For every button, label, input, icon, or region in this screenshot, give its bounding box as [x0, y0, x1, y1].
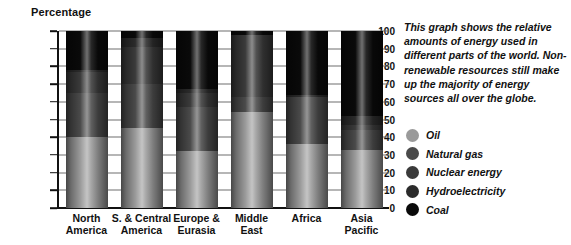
legend-item: Coal: [406, 200, 505, 219]
bar-group: [114, 31, 169, 208]
bar-segment: [286, 95, 328, 97]
y-tick-mark: [50, 172, 57, 174]
bar-segment: [176, 93, 218, 107]
bar-segment: [66, 93, 108, 137]
legend-item: Natural gas: [406, 145, 505, 164]
bar-segment: [176, 107, 218, 151]
legend-item: Hydroelectricity: [406, 182, 505, 201]
stacked-bar: [231, 31, 273, 208]
legend-color-swatch-icon: [406, 129, 419, 142]
legend-label: Coal: [426, 204, 449, 216]
bar-group: [59, 31, 114, 208]
bar-segment: [231, 97, 273, 113]
bar-group: [224, 31, 279, 208]
bar-segment: [176, 151, 218, 208]
side-panel: This graph shows the relative amounts of…: [404, 0, 571, 245]
legend-label: Hydroelectricity: [426, 185, 505, 197]
y-tick-mark: [50, 190, 57, 192]
bar-segment: [286, 31, 328, 95]
legend-item: Nuclear energy: [406, 163, 505, 182]
y-tick-mark: [50, 119, 57, 121]
bar-segment: [66, 137, 108, 208]
x-axis-category-label: AsiaPacific: [328, 212, 395, 236]
bar-segment: [66, 70, 108, 72]
stacked-bar: [121, 31, 163, 208]
chart-legend: OilNatural gasNuclear energyHydroelectri…: [406, 126, 505, 219]
bar-segment: [176, 89, 218, 93]
bar-segment: [176, 31, 218, 89]
bar-segment: [341, 31, 383, 116]
legend-color-swatch-icon: [406, 147, 419, 160]
y-tick-mark: [50, 154, 57, 156]
y-tick-mark: [50, 136, 57, 138]
legend-color-swatch-icon: [406, 185, 419, 198]
bar-segment: [121, 128, 163, 208]
energy-usage-bar-chart: Percentage 0102030405060708090100 NorthA…: [0, 0, 395, 245]
bar-segment: [231, 31, 273, 35]
y-tick-mark: [50, 207, 57, 209]
bar-segment: [121, 84, 163, 128]
bar-segment: [121, 38, 163, 47]
plot-area: [59, 31, 389, 208]
bar-segment: [231, 35, 273, 97]
legend-label: Oil: [426, 129, 440, 141]
y-tick-mark: [50, 48, 57, 50]
bar-group: [334, 31, 389, 208]
legend-color-swatch-icon: [406, 203, 419, 216]
legend-label: Natural gas: [426, 148, 483, 160]
y-tick-mark: [50, 101, 57, 103]
chart-description: This graph shows the relative amounts of…: [404, 20, 569, 105]
bar-segment: [341, 130, 383, 149]
y-tick-mark: [50, 66, 57, 68]
bar-segment: [121, 47, 163, 84]
bar-segment: [231, 112, 273, 208]
y-tick-mark: [50, 30, 57, 32]
bar-segment: [341, 116, 383, 125]
bar-group: [279, 31, 334, 208]
stacked-bar: [66, 31, 108, 208]
bar-segment: [66, 31, 108, 70]
bar-segment: [286, 97, 328, 145]
bar-group: [169, 31, 224, 208]
legend-label: Nuclear energy: [426, 166, 502, 178]
stacked-bar: [286, 31, 328, 208]
y-tick-mark: [50, 83, 57, 85]
bar-segment: [286, 144, 328, 208]
bar-segment: [341, 125, 383, 130]
legend-color-swatch-icon: [406, 166, 419, 179]
bar-segment: [121, 31, 163, 38]
legend-item: Oil: [406, 126, 505, 145]
stacked-bar: [341, 31, 383, 208]
stacked-bar: [176, 31, 218, 208]
bar-segment: [341, 150, 383, 208]
y-axis-title: Percentage: [31, 6, 91, 18]
bar-segment: [66, 72, 108, 93]
